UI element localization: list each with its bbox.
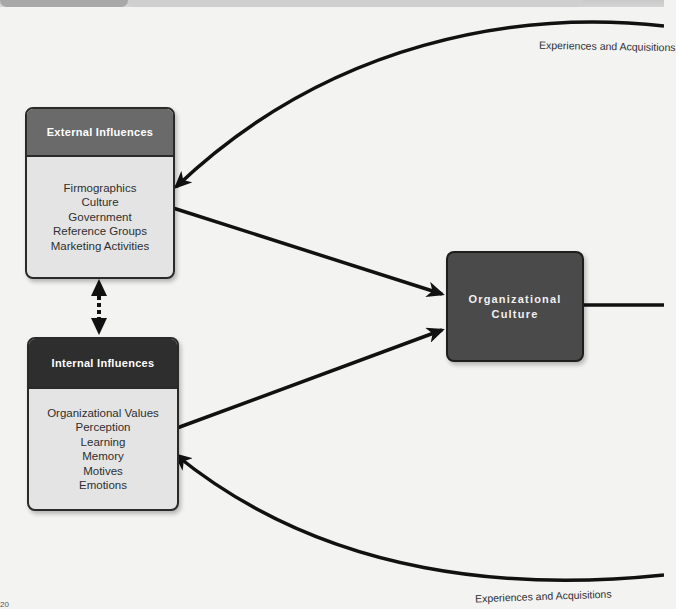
external-to-culture-arrow [173,208,442,294]
list-item: Memory [82,449,124,464]
feedback-label-top: Experiences and Acquisitions [539,39,676,53]
up-arrowhead [91,279,107,296]
list-item: Culture [81,195,118,210]
list-item: Organizational Values [47,406,159,421]
list-item: Government [68,210,131,225]
page-number: 20 [0,600,9,609]
internal-influences-list: Organizational Values Perception Learnin… [29,389,177,509]
list-item: Perception [76,420,131,435]
list-item: Learning [81,435,126,450]
list-item: Marketing Activities [51,239,149,254]
internal-to-culture-arrow [177,330,442,428]
down-arrowhead [91,318,107,335]
external-influences-box: External Influences Firmographics Cultur… [25,107,175,279]
list-item: Emotions [79,478,127,493]
list-item: Reference Groups [53,224,147,239]
list-item: Motives [83,464,123,479]
internal-influences-title: Internal Influences [29,339,177,389]
organizational-culture-title: Organizational Culture [465,292,565,322]
external-influences-list: Firmographics Culture Government Referen… [27,157,173,277]
external-influences-title: External Influences [27,109,173,157]
list-item: Firmographics [64,181,137,196]
internal-influences-box: Internal Influences Organizational Value… [27,337,179,511]
organizational-culture-box: Organizational Culture [446,251,584,362]
feedback-arrow-bottom [176,455,664,580]
